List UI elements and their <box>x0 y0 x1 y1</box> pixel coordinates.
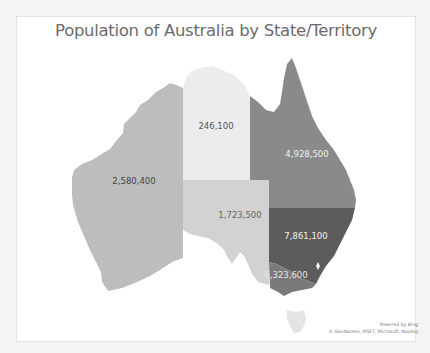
australia-map: 2,580,400 246,100 4,928,500 1,723,500 7,… <box>0 0 430 353</box>
region-western-australia[interactable] <box>72 83 183 291</box>
region-tasmania[interactable] <box>287 310 306 333</box>
region-south-australia[interactable] <box>183 180 269 285</box>
label-nsw: 7,861,100 <box>284 231 327 241</box>
label-qld: 4,928,500 <box>285 149 328 159</box>
label-nt: 246,100 <box>198 121 233 131</box>
label-vic: 6,323,600 <box>264 270 307 280</box>
label-sa: 1,723,500 <box>218 210 261 220</box>
label-wa: 2,580,400 <box>112 176 155 186</box>
attribution-bing: Powered by Bing <box>380 322 418 327</box>
attribution-sources: © GeoNames, MSFT, Microsoft, Navteq <box>328 329 418 334</box>
